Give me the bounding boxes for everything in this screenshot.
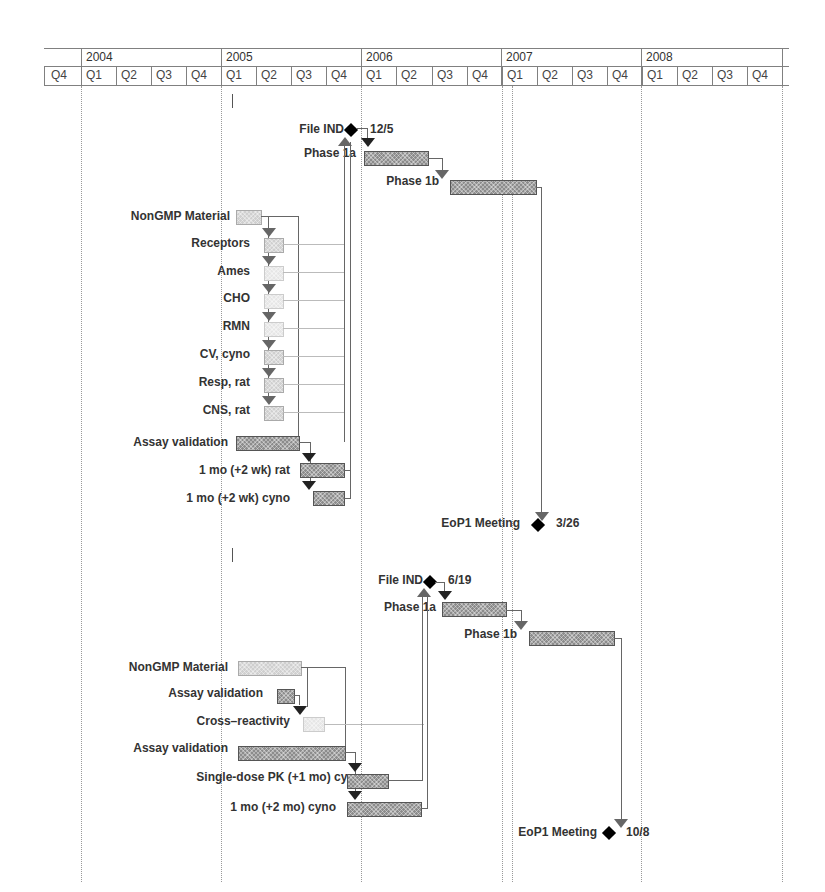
task-bar-single-dose-pk[interactable] — [347, 774, 389, 789]
quarter-sep — [291, 66, 292, 85]
quarter-label: Q3 — [296, 68, 312, 82]
milestone-date: 10/8 — [626, 825, 649, 839]
task-bar-rmn[interactable] — [264, 322, 284, 337]
task-bar-cv-cyno[interactable] — [264, 350, 284, 365]
arrow-down-icon — [302, 453, 316, 462]
quarter-label: Q1 — [86, 68, 102, 82]
task-bar-phase1a[interactable] — [364, 151, 429, 166]
task-label-cns-rat: CNS, rat — [203, 403, 250, 417]
quarter-label: Q2 — [682, 68, 698, 82]
dependency-line — [388, 780, 423, 781]
quarter-label: Q2 — [401, 68, 417, 82]
task-bar-assay-validation[interactable] — [236, 436, 300, 451]
task-bar-assay-validation-small[interactable] — [277, 689, 295, 704]
arrow-up-icon — [417, 588, 431, 597]
year-label: 2008 — [646, 50, 673, 64]
milestone-date: 3/26 — [556, 516, 579, 530]
dependency-line — [427, 596, 428, 808]
task-bar-1mo-cyno[interactable] — [347, 802, 422, 817]
task-label-single-dose-pk: Single-dose PK (+1 mo) cyno — [196, 770, 362, 784]
task-bar-cns-rat[interactable] — [264, 406, 284, 421]
year-label: 2004 — [86, 50, 113, 64]
arrow-down-icon — [262, 312, 276, 321]
task-bar-phase1b[interactable] — [529, 631, 615, 646]
dependency-line — [283, 412, 345, 413]
task-bar-nongmp[interactable] — [236, 210, 262, 225]
quarter-sep — [44, 66, 45, 85]
task-label-eop1: EoP1 Meeting — [441, 516, 520, 530]
quarter-sep — [326, 66, 327, 85]
task-label-assay-validation: Assay validation — [133, 435, 228, 449]
task-label-phase1b: Phase 1b — [386, 174, 439, 188]
quarter-sep — [151, 66, 152, 85]
task-bar-cross-reactivity[interactable] — [303, 717, 325, 732]
task-label-cv-cyno: CV, cyno — [200, 347, 250, 361]
task-label-file-ind: File IND — [378, 573, 423, 587]
task-bar-assay-validation[interactable] — [238, 746, 346, 761]
quarter-label: Q3 — [717, 68, 733, 82]
milestone-date: 12/5 — [370, 122, 393, 136]
dependency-line — [283, 300, 345, 301]
dependency-line — [283, 244, 345, 245]
task-bar-receptors[interactable] — [264, 238, 284, 253]
current-date-marker — [232, 94, 233, 108]
year-sep — [782, 48, 783, 85]
task-bar-phase1b[interactable] — [450, 180, 537, 195]
dependency-line — [428, 158, 442, 159]
arrow-down-icon — [262, 284, 276, 293]
task-bar-1mo-cyno[interactable] — [313, 491, 345, 506]
dependency-line — [345, 667, 346, 747]
milestone-file-ind[interactable] — [344, 123, 358, 137]
year-label: 2007 — [506, 50, 533, 64]
quarter-label: Q4 — [191, 68, 207, 82]
arrow-down-icon — [302, 481, 316, 490]
task-label-assay-validation: Assay validation — [133, 741, 228, 755]
task-label-phase1a: Phase 1a — [304, 146, 356, 160]
year-label: 2006 — [366, 50, 393, 64]
arrow-down-icon — [348, 791, 362, 800]
quarter-sep — [116, 66, 117, 85]
dependency-line — [324, 724, 424, 725]
current-date-marker — [232, 548, 233, 562]
arrow-down-icon — [262, 368, 276, 377]
task-label-phase1a: Phase 1a — [384, 600, 436, 614]
header-bottom-border — [44, 85, 789, 86]
quarter-label: Q4 — [331, 68, 347, 82]
gridline — [81, 86, 82, 882]
dependency-line — [421, 808, 428, 809]
gridline — [512, 86, 513, 882]
dependency-line — [367, 128, 368, 138]
dependency-line — [344, 146, 345, 442]
dependency-line — [350, 142, 351, 499]
arrow-down-icon — [361, 138, 375, 147]
quarter-sep — [396, 66, 397, 85]
quarter-sep — [607, 66, 608, 85]
gridline — [782, 86, 783, 882]
quarter-label: Q3 — [156, 68, 172, 82]
task-bar-resp-rat[interactable] — [264, 378, 284, 393]
quarter-label: Q4 — [752, 68, 768, 82]
quarter-sep — [677, 66, 678, 85]
dependency-line — [442, 158, 443, 170]
task-bar-ames[interactable] — [264, 266, 284, 281]
dependency-line — [283, 328, 345, 329]
task-label-eop1: EoP1 Meeting — [518, 825, 597, 839]
arrow-down-icon — [262, 256, 276, 265]
task-label-1mo-cyno: 1 mo (+2 wk) cyno — [186, 491, 290, 505]
quarter-sep — [221, 66, 222, 85]
task-bar-cho[interactable] — [264, 294, 284, 309]
task-bar-1mo-rat[interactable] — [300, 463, 345, 478]
quarter-label: Q1 — [507, 68, 523, 82]
gridline — [221, 86, 222, 882]
arrow-down-icon — [438, 591, 452, 600]
quarter-label: Q1 — [226, 68, 242, 82]
task-bar-nongmp[interactable] — [238, 661, 302, 676]
task-label-resp-rat: Resp, rat — [199, 375, 250, 389]
milestone-eop1[interactable] — [602, 826, 616, 840]
quarter-sep — [432, 66, 433, 85]
task-bar-phase1a[interactable] — [442, 602, 507, 617]
quarter-sep — [186, 66, 187, 85]
dependency-line — [283, 384, 345, 385]
quarter-label: Q3 — [577, 68, 593, 82]
task-label-cho: CHO — [223, 291, 250, 305]
